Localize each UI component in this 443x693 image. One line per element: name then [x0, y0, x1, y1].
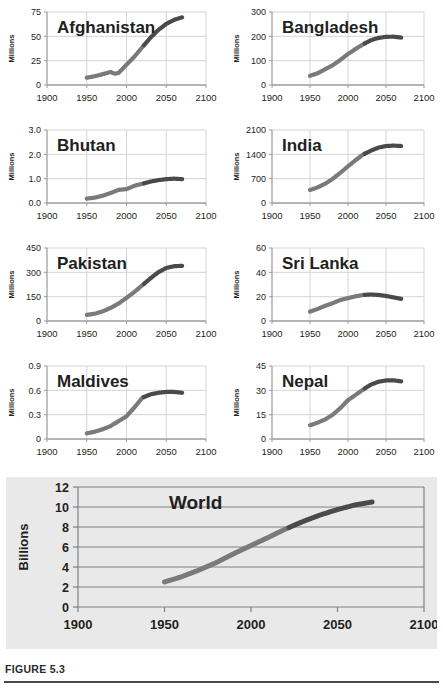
series-line-projected [144, 179, 182, 184]
series-line-projected [365, 380, 401, 388]
chart-svg: 020406019001950200020502100MillionsSri L… [225, 236, 443, 354]
chart-panel-pakistan: 015030045019001950200020502100MillionsPa… [0, 236, 225, 354]
y-tick-label: 12 [55, 481, 69, 495]
y-axis-label: Billions [16, 524, 31, 571]
y-tick-label: 0 [36, 80, 41, 90]
x-tick-label: 2050 [156, 92, 177, 103]
x-tick-label: 1900 [36, 92, 57, 103]
x-tick-label: 2100 [195, 92, 216, 103]
y-axis-label: Millions [7, 35, 16, 63]
y-tick-label: 1400 [246, 150, 266, 160]
y-tick-label: 200 [251, 32, 266, 42]
x-tick-label: 2000 [116, 328, 137, 339]
series-line-historical [165, 528, 290, 583]
x-tick-label: 1900 [36, 328, 57, 339]
y-tick-label: 300 [251, 7, 266, 17]
x-tick-label: 2100 [413, 328, 434, 339]
chart-title: Pakistan [57, 254, 127, 273]
series-line-projected [144, 392, 182, 397]
series-line-projected [289, 502, 372, 528]
x-tick-label: 1950 [76, 92, 97, 103]
x-tick-label: 2000 [116, 446, 137, 457]
y-tick-label: 45 [256, 361, 266, 371]
series-line-projected [144, 266, 182, 284]
x-tick-label: 1900 [261, 210, 282, 221]
y-tick-label: 4 [62, 561, 69, 575]
y-tick-label: 0 [36, 316, 41, 326]
x-tick-label: 2050 [156, 446, 177, 457]
x-tick-label: 2050 [323, 617, 352, 632]
x-tick-label: 1900 [36, 210, 57, 221]
x-tick-label: 2100 [195, 210, 216, 221]
x-tick-label: 2000 [337, 92, 358, 103]
series-line-historical [310, 295, 365, 312]
world-chart-svg: 02468101219001950200020502100BillionsWor… [6, 477, 437, 649]
y-tick-label: 2 [62, 581, 69, 595]
x-tick-label: 2100 [195, 328, 216, 339]
small-multiples-grid: 025507519001950200020502100MillionsAfgha… [0, 0, 443, 472]
x-tick-label: 2100 [410, 617, 437, 632]
x-tick-label: 2050 [156, 210, 177, 221]
y-tick-label: 0.6 [28, 386, 41, 396]
y-tick-label: 15 [256, 410, 266, 420]
y-axis-label: Millions [232, 389, 241, 417]
chart-svg: 015030045019001950200020502100MillionsPa… [0, 236, 225, 354]
y-tick-label: 2.0 [28, 150, 41, 160]
y-tick-label: 8 [62, 521, 69, 535]
series-line-historical [310, 389, 365, 426]
y-tick-label: 40 [256, 268, 266, 278]
chart-svg: 07001400210019001950200020502100Millions… [225, 118, 443, 236]
x-tick-label: 2050 [375, 328, 396, 339]
chart-title: Bangladesh [282, 18, 378, 37]
series-line-projected [365, 146, 401, 154]
x-tick-label: 1950 [299, 210, 320, 221]
x-tick-label: 1950 [76, 210, 97, 221]
y-axis-label: Millions [232, 35, 241, 63]
chart-svg: 0.01.02.03.019001950200020502100Millions… [0, 118, 225, 236]
x-tick-label: 1900 [36, 446, 57, 457]
y-tick-label: 1.0 [28, 174, 41, 184]
x-tick-label: 1950 [299, 328, 320, 339]
series-line-historical [87, 45, 144, 78]
y-tick-label: 0 [36, 434, 41, 444]
chart-panel-maldives: 00.30.60.919001950200020502100MillionsMa… [0, 354, 225, 472]
y-tick-label: 150 [26, 292, 41, 302]
x-tick-label: 1900 [261, 92, 282, 103]
x-tick-label: 1950 [299, 92, 320, 103]
x-tick-label: 2100 [413, 210, 434, 221]
x-tick-label: 1900 [64, 617, 93, 632]
y-tick-label: 0 [261, 316, 266, 326]
chart-svg: 010020030019001950200020502100MillionsBa… [225, 0, 443, 118]
chart-panel-nepal: 015304519001950200020502100MillionsNepal [225, 354, 443, 472]
x-tick-label: 2000 [337, 446, 358, 457]
series-line-historical [310, 154, 365, 190]
y-tick-label: 100 [251, 56, 266, 66]
x-tick-label: 2000 [237, 617, 266, 632]
y-tick-label: 20 [256, 292, 266, 302]
chart-panel-bhutan: 0.01.02.03.019001950200020502100Millions… [0, 118, 225, 236]
x-tick-label: 1950 [150, 617, 179, 632]
x-tick-label: 1900 [261, 328, 282, 339]
series-line-historical [87, 284, 144, 315]
y-tick-label: 0.3 [28, 410, 41, 420]
x-tick-label: 2050 [156, 328, 177, 339]
y-axis-label: Millions [7, 389, 16, 417]
x-tick-label: 1950 [76, 446, 97, 457]
x-tick-label: 1950 [76, 328, 97, 339]
x-tick-label: 2100 [413, 92, 434, 103]
x-tick-label: 2000 [337, 328, 358, 339]
y-tick-label: 450 [26, 243, 41, 253]
y-axis-label: Millions [7, 153, 16, 181]
chart-panel-sri-lanka: 020406019001950200020502100MillionsSri L… [225, 236, 443, 354]
x-tick-label: 2050 [375, 446, 396, 457]
y-tick-label: 0.0 [28, 198, 41, 208]
y-tick-label: 75 [31, 7, 41, 17]
y-tick-label: 6 [62, 541, 69, 555]
caption-rule [4, 681, 439, 683]
x-tick-label: 2000 [116, 210, 137, 221]
x-tick-label: 1950 [299, 446, 320, 457]
y-tick-label: 700 [251, 174, 266, 184]
series-line-projected [365, 37, 401, 44]
chart-title: Nepal [282, 372, 328, 391]
x-tick-label: 2100 [413, 446, 434, 457]
